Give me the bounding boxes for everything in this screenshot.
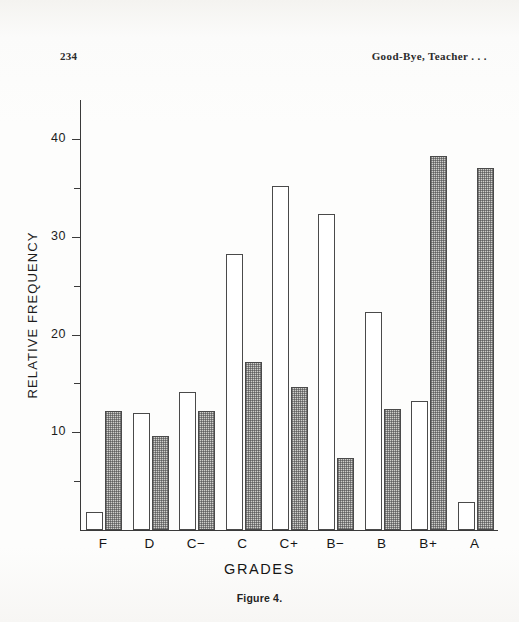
bar-A-shaded [477,168,494,530]
x-tick-label: D [126,536,172,551]
y-tick-label: 10 [36,424,66,438]
bar-C-open [226,254,243,530]
x-tick-label: B [359,536,405,551]
x-tick-label: F [80,536,126,551]
bar-Cminus-open [179,392,196,530]
x-tick-label: C+ [266,536,312,551]
x-tick-label: C− [173,536,219,551]
bar-B-open [365,312,382,530]
y-tick-label: 30 [36,229,66,243]
bar-Bminus-shaded [337,458,354,530]
bar-D-shaded [152,436,169,530]
bar-D-open [133,413,150,530]
x-axis-line [80,530,498,531]
figure-4-bar-chart: RELATIVE FREQUENCY 10203040 FDC−CC+B−BB+… [0,0,519,622]
bar-Bminus-open [318,214,335,530]
x-tick-label: C [219,536,265,551]
x-tick-label: B+ [405,536,451,551]
bar-Cminus-shaded [198,411,215,530]
y-axis-title: RELATIVE FREQUENCY [25,232,40,399]
bar-C-shaded [245,362,262,530]
y-tick-label: 20 [36,327,66,341]
bar-Bplus-shaded [430,156,447,530]
y-axis-title-wrap: RELATIVE FREQUENCY [22,100,42,530]
x-tick-label: A [452,536,498,551]
bar-A-open [458,502,475,530]
bars-area [80,100,498,530]
bar-F-open [86,512,103,530]
bar-Bplus-open [411,401,428,530]
bar-Cplus-shaded [291,387,308,530]
bar-F-shaded [105,411,122,530]
x-tick-label: B− [312,536,358,551]
bar-Cplus-open [272,186,289,530]
bar-B-shaded [384,409,401,530]
figure-caption: Figure 4. [0,592,519,604]
x-axis-title: GRADES [0,561,519,577]
y-tick-label: 40 [36,131,66,145]
